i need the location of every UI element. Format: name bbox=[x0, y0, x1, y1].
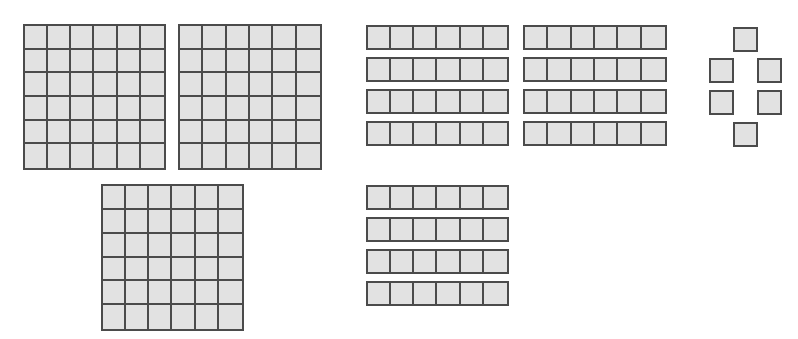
unit-cell bbox=[103, 234, 126, 258]
unit-cell bbox=[126, 258, 149, 282]
unit-cell bbox=[735, 124, 756, 145]
unit-cell bbox=[149, 305, 172, 329]
unit-cell bbox=[118, 97, 141, 121]
unit-cell bbox=[595, 91, 618, 112]
unit-cell bbox=[414, 59, 437, 80]
unit-cell bbox=[642, 91, 665, 112]
unit-cell bbox=[273, 26, 296, 50]
unit-cell bbox=[572, 123, 595, 144]
unit-cell bbox=[595, 59, 618, 80]
unit-cell bbox=[437, 91, 460, 112]
diagram-description: Base-ten style blocks: three 6x6 flats, … bbox=[0, 0, 1, 1]
unit-cell bbox=[391, 91, 414, 112]
unit-cell bbox=[414, 251, 437, 272]
unit-cell bbox=[149, 258, 172, 282]
unit-cell bbox=[618, 91, 641, 112]
unit-cell bbox=[250, 121, 273, 145]
unit-cell bbox=[711, 92, 732, 113]
unit-cell bbox=[618, 123, 641, 144]
unit-cell bbox=[484, 219, 507, 240]
unit-cell bbox=[273, 50, 296, 74]
unit-cell bbox=[25, 73, 48, 97]
flats-label: 6x6 flats bbox=[0, 0, 1, 1]
unit-cell bbox=[94, 121, 117, 145]
unit-cell bbox=[273, 97, 296, 121]
rod-block bbox=[523, 25, 667, 50]
unit-cell bbox=[196, 210, 219, 234]
unit-cell bbox=[172, 186, 195, 210]
unit-cell bbox=[437, 219, 460, 240]
unit-cell bbox=[172, 234, 195, 258]
flat-block bbox=[23, 24, 166, 170]
unit-cell bbox=[414, 27, 437, 48]
unit-cell bbox=[414, 187, 437, 208]
unit-cell bbox=[525, 91, 548, 112]
unit-cell bbox=[172, 258, 195, 282]
unit-cell bbox=[297, 50, 320, 74]
unit-cell bbox=[368, 27, 391, 48]
unit-cell bbox=[149, 186, 172, 210]
unit-cell bbox=[414, 91, 437, 112]
unit-cell bbox=[118, 121, 141, 145]
unit-cell bbox=[141, 50, 164, 74]
unit-cell bbox=[391, 219, 414, 240]
unit-cell bbox=[391, 251, 414, 272]
unit-cell bbox=[172, 305, 195, 329]
unit-cell bbox=[414, 283, 437, 304]
unit-cell bbox=[414, 123, 437, 144]
unit-cell bbox=[461, 187, 484, 208]
unit-cell bbox=[595, 27, 618, 48]
unit-cell bbox=[368, 59, 391, 80]
unit-cell bbox=[642, 27, 665, 48]
unit-cell bbox=[94, 26, 117, 50]
unit-cell bbox=[172, 210, 195, 234]
unit-cell bbox=[196, 281, 219, 305]
unit-cell bbox=[196, 234, 219, 258]
unit-cell bbox=[437, 283, 460, 304]
unit-cell bbox=[227, 26, 250, 50]
unit-cell bbox=[250, 144, 273, 168]
unit-cell bbox=[48, 121, 71, 145]
unit-cell bbox=[203, 73, 226, 97]
unit-cell bbox=[203, 144, 226, 168]
rod-block bbox=[366, 121, 509, 146]
unit-cell bbox=[118, 144, 141, 168]
unit-cell bbox=[71, 26, 94, 50]
unit-cell bbox=[48, 50, 71, 74]
unit-cell bbox=[368, 219, 391, 240]
unit-cell bbox=[141, 73, 164, 97]
unit-cell bbox=[595, 123, 618, 144]
unit-cell bbox=[71, 121, 94, 145]
rod-block bbox=[523, 89, 667, 114]
unit-cell bbox=[548, 59, 571, 80]
unit-cell bbox=[94, 97, 117, 121]
unit-cell bbox=[391, 283, 414, 304]
unit-cell bbox=[548, 91, 571, 112]
unit-cell bbox=[391, 59, 414, 80]
unit-cell bbox=[484, 123, 507, 144]
unit-cell bbox=[25, 50, 48, 74]
rod-block bbox=[366, 217, 509, 242]
unit-cell bbox=[118, 50, 141, 74]
unit-cell bbox=[437, 251, 460, 272]
unit-cell bbox=[572, 91, 595, 112]
unit-cell bbox=[642, 59, 665, 80]
unit-cell bbox=[141, 97, 164, 121]
unit-cell bbox=[368, 187, 391, 208]
rod-block bbox=[366, 25, 509, 50]
unit-cell bbox=[484, 59, 507, 80]
unit-cell bbox=[103, 210, 126, 234]
unit-block bbox=[733, 122, 758, 147]
unit-cell bbox=[391, 27, 414, 48]
unit-cell bbox=[250, 97, 273, 121]
unit-cell bbox=[71, 97, 94, 121]
unit-cell bbox=[94, 144, 117, 168]
unit-cell bbox=[759, 92, 780, 113]
unit-cell bbox=[103, 186, 126, 210]
rod-block bbox=[366, 89, 509, 114]
unit-cell bbox=[126, 186, 149, 210]
unit-cell bbox=[711, 60, 732, 81]
unit-cell bbox=[48, 26, 71, 50]
unit-cell bbox=[203, 121, 226, 145]
unit-cell bbox=[525, 123, 548, 144]
